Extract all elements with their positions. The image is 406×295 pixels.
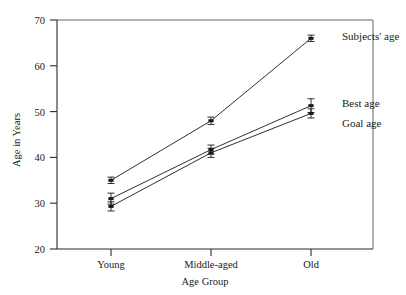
y-axis: 70 60 50 40 30 20 Age in Years [11,15,57,255]
series-label-subjects-age: Subjects' age [342,30,399,42]
label-leader-1 [313,104,338,106]
y-tick-label-40: 40 [35,152,46,163]
x-axis: Young Middle-aged Old Age Group [57,249,373,287]
y-tick-label-20: 20 [35,244,46,255]
data-point-marker [308,112,313,115]
series-layer [108,33,339,211]
chart-figure: 70 60 50 40 30 20 Age in Years Young Mid… [0,0,406,295]
series-polyline [111,38,311,180]
series-subjects-age [108,35,315,183]
plot-frame [57,20,373,249]
series-labels: Subjects' age Best age Goal age [342,30,399,129]
series-label-goal-age: Goal age [342,117,382,129]
data-point-marker [108,205,113,208]
data-point-marker [208,151,213,154]
label-leader-2 [313,113,338,120]
series-label-best-age: Best age [342,97,380,109]
data-point-marker [108,197,113,200]
y-tick-label-50: 50 [35,107,46,118]
series-polyline [111,113,311,206]
y-tick-label-70: 70 [35,15,46,26]
data-point-marker [308,104,313,107]
data-point-marker [208,119,213,122]
x-tick-label-old: Old [303,259,320,270]
label-leader-0 [313,33,338,38]
x-tick-label-middle: Middle-aged [184,259,238,270]
y-tick-label-60: 60 [35,61,46,72]
x-tick-label-young: Young [97,259,125,270]
data-point-marker [308,37,313,40]
line-chart-svg: 70 60 50 40 30 20 Age in Years Young Mid… [0,0,406,295]
y-tick-label-30: 30 [35,198,46,209]
data-point-marker [108,179,113,182]
x-axis-title: Age Group [182,276,229,287]
y-axis-title: Age in Years [11,113,22,167]
